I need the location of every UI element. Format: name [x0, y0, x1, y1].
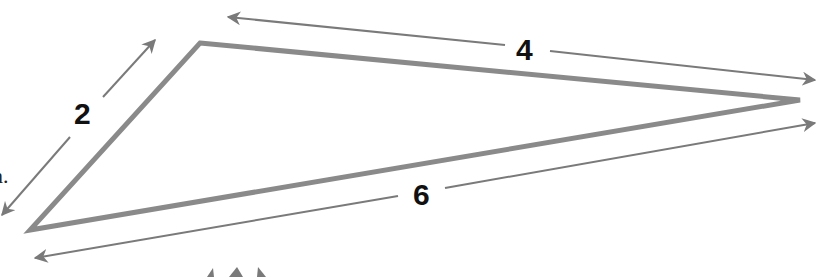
- cut-off-text: n.: [0, 163, 9, 189]
- side-label-6: 6: [413, 178, 430, 212]
- triangle-diagram: [0, 0, 837, 277]
- side-label-2: 2: [74, 97, 91, 131]
- side-label-4: 4: [516, 33, 533, 67]
- partial-arrowheads-bottom: [207, 267, 266, 277]
